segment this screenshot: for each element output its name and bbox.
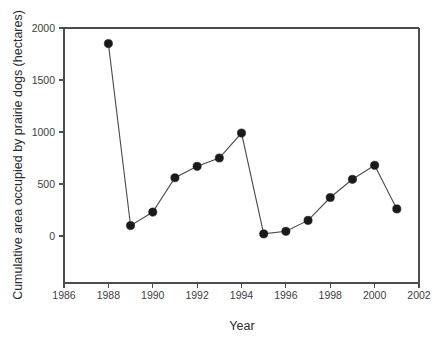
data-point-marker: 1991: 560 <box>171 174 179 182</box>
data-point-marker: 1998: 370 <box>326 193 334 201</box>
x-axis-tick-label: 1996 <box>274 289 298 301</box>
chart-figure: 0500100015002000 19861988199019921994199… <box>0 0 445 341</box>
line-chart-svg: 0500100015002000 19861988199019921994199… <box>0 0 445 341</box>
data-point-marker: 1997: 150 <box>304 216 312 224</box>
data-point-marker: 2000: 680 <box>371 161 379 169</box>
data-point-marker: 1989: 100 <box>126 222 134 230</box>
data-point-marker: 1990: 230 <box>149 208 157 216</box>
y-axis-title: Cumulative area occupied by prairie dogs… <box>11 10 25 300</box>
data-point-marker: 1993: 750 <box>215 154 223 162</box>
x-axis-tick-label: 1986 <box>52 289 76 301</box>
x-axis-tick-label: 1992 <box>185 289 209 301</box>
y-axis-tick-label: 1000 <box>32 126 56 138</box>
data-point-marker: 1992: 670 <box>193 162 201 170</box>
x-axis-tick-label: 2002 <box>407 289 431 301</box>
x-axis-tick-label: 2000 <box>363 289 387 301</box>
y-axis-tick-label: 1500 <box>32 74 56 86</box>
y-axis-tick-label: 500 <box>37 178 55 190</box>
x-axis-title: Year <box>229 319 254 333</box>
data-point-marker: 2001: 260 <box>393 205 401 213</box>
data-point-marker: 1994: 990 <box>237 129 245 137</box>
x-axis-tick-label: 1990 <box>141 289 165 301</box>
data-point-marker: 1999: 545 <box>348 175 356 183</box>
y-axis-tick-label: 2000 <box>32 22 56 34</box>
x-axis-tick-label: 1988 <box>97 289 121 301</box>
x-axis-tick-label: 1994 <box>230 289 254 301</box>
data-point-marker: 1988: 1850 <box>104 40 112 48</box>
data-point-marker: 1995: 20 <box>260 230 268 238</box>
x-axis-tick-label: 1998 <box>319 289 343 301</box>
y-axis-tick-label: 0 <box>49 230 55 242</box>
data-point-marker: 1996: 45 <box>282 227 290 235</box>
